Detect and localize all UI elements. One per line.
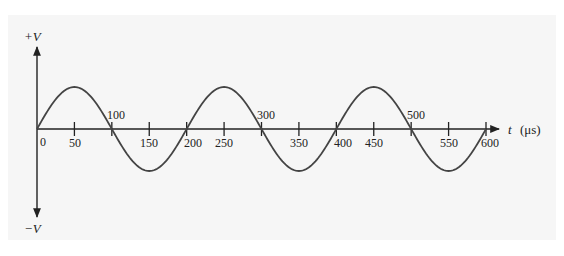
tick-label-100: 100 bbox=[107, 108, 125, 122]
tick-label-250: 250 bbox=[215, 136, 233, 150]
x-axis-unit-label: (μs) bbox=[520, 122, 541, 137]
y-axis-bottom-label: −V bbox=[24, 221, 43, 236]
tick-label-600: 600 bbox=[481, 136, 499, 150]
tick-label-500: 500 bbox=[407, 108, 425, 122]
tick-label-50: 50 bbox=[69, 136, 81, 150]
tick-label-550: 550 bbox=[440, 136, 458, 150]
waveform-diagram: +V −V 0 50 150 200 250 350 400 450 550 6… bbox=[0, 0, 564, 256]
tick-label-150: 150 bbox=[140, 136, 158, 150]
origin-label: 0 bbox=[40, 135, 46, 149]
tick-label-350: 350 bbox=[290, 136, 308, 150]
tick-label-200: 200 bbox=[184, 136, 202, 150]
x-axis-variable-label: t bbox=[508, 122, 512, 137]
tick-label-450: 450 bbox=[365, 136, 383, 150]
y-axis-top-label: +V bbox=[24, 29, 43, 44]
tick-label-300: 300 bbox=[257, 108, 275, 122]
tick-label-400: 400 bbox=[334, 136, 352, 150]
